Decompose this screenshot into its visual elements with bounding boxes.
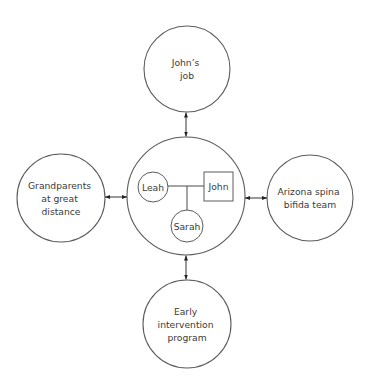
node-arizona-spina-bifida-team: Arizona spina bifida team — [267, 155, 353, 241]
node-circle-right — [267, 155, 353, 241]
member-john: John — [204, 172, 233, 201]
node-circle-top — [144, 26, 230, 112]
node-label-line: Grandparents — [28, 180, 91, 191]
central-family-node: Leah John Sarah — [127, 137, 245, 255]
node-label-line: bifida team — [284, 199, 336, 210]
member-label-leah: Leah — [142, 182, 164, 193]
node-grandparents: Grandparents at great distance — [17, 154, 105, 242]
node-label-line: job — [179, 70, 194, 81]
node-label-line: Early — [174, 306, 198, 317]
node-label-line: at great — [41, 193, 78, 204]
node-label-line: John’s — [171, 57, 200, 68]
node-johns-job: John’s job — [144, 26, 230, 112]
node-label-line: intervention — [158, 319, 214, 330]
node-early-intervention: Early intervention program — [143, 280, 231, 368]
member-leah: Leah — [138, 172, 168, 202]
node-label-line: program — [167, 332, 206, 343]
member-label-sarah: Sarah — [174, 221, 201, 232]
node-label-line: Arizona spina — [278, 186, 340, 197]
node-label-line: distance — [42, 206, 81, 217]
ecomap-diagram: John’s job Grandparents at great distanc… — [0, 0, 369, 386]
member-label-john: John — [208, 181, 229, 192]
member-sarah: Sarah — [171, 210, 203, 242]
